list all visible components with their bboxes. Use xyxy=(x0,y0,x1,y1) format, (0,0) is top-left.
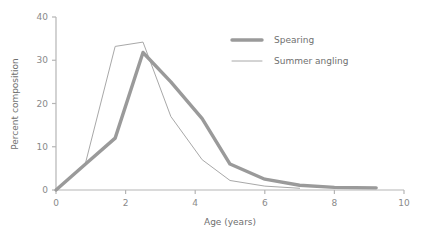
x-axis-title: Age (years) xyxy=(204,217,256,227)
legend-label-summer-angling: Summer angling xyxy=(274,56,348,66)
y-tick-label: 30 xyxy=(37,55,49,65)
x-axis-ticks: 0246810 xyxy=(53,190,410,208)
y-tick-label: 0 xyxy=(42,185,48,195)
line-chart: 010203040 0246810 Age (years) Percent co… xyxy=(0,0,431,235)
legend-label-spearing: Spearing xyxy=(274,35,314,45)
x-tick-label: 0 xyxy=(53,198,59,208)
series-line-summer-angling xyxy=(56,42,300,190)
x-tick-label: 6 xyxy=(262,198,268,208)
x-tick-label: 2 xyxy=(123,198,129,208)
chart-legend: SpearingSummer angling xyxy=(232,35,348,66)
chart-container: 010203040 0246810 Age (years) Percent co… xyxy=(0,0,431,235)
y-tick-label: 10 xyxy=(37,142,49,152)
y-tick-label: 40 xyxy=(37,12,49,22)
y-axis-title: Percent composition xyxy=(10,58,20,150)
x-tick-label: 8 xyxy=(332,198,338,208)
y-axis-ticks: 010203040 xyxy=(37,12,56,195)
x-tick-label: 4 xyxy=(192,198,198,208)
y-tick-label: 20 xyxy=(37,99,49,109)
series-line-spearing xyxy=(56,52,376,190)
x-tick-label: 10 xyxy=(398,198,410,208)
